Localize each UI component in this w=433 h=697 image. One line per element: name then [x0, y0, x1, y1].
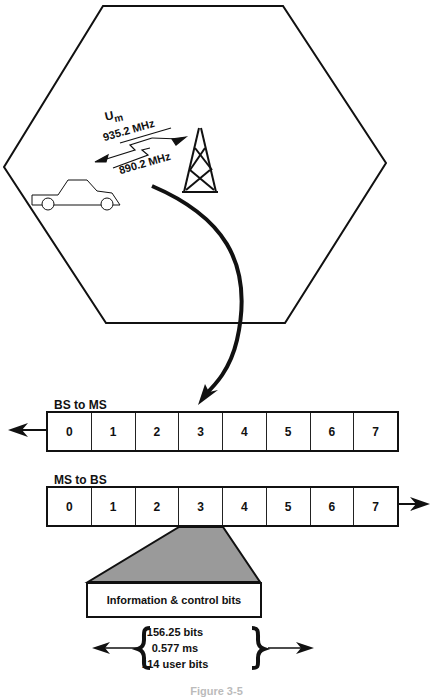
- burst-bits: 156.25 bits: [130, 624, 220, 640]
- burst-content-box: Information & control bits: [86, 582, 262, 618]
- timeslot: 2: [136, 488, 180, 525]
- duration-right-arrow: [268, 642, 314, 654]
- interface-subscript: m: [113, 112, 124, 125]
- brace-right-icon: [252, 628, 264, 668]
- timeslot: 0: [48, 413, 92, 450]
- uplink-direction-arrow: [398, 497, 430, 511]
- downlink-direction-arrow: [8, 423, 46, 437]
- timeslot: 7: [354, 413, 397, 450]
- uplink-tdma-frame: 0 1 2 3 4 5 6 7: [46, 486, 399, 527]
- timeslot: 3: [179, 413, 223, 450]
- burst-duration: 0.577 ms: [130, 640, 220, 656]
- car-icon: [32, 180, 120, 210]
- tower-icon: [182, 128, 218, 192]
- timeslot: 5: [267, 413, 311, 450]
- downlink-label: BS to MS: [54, 398, 107, 412]
- timeslot: 5: [267, 488, 311, 525]
- timeslot: 7: [354, 488, 397, 525]
- timeslot: 6: [311, 488, 355, 525]
- uplink-label: MS to BS: [54, 473, 107, 487]
- timeslot: 0: [48, 488, 92, 525]
- timeslot: 4: [223, 413, 267, 450]
- timeslot: 3: [179, 488, 223, 525]
- burst-stats: 156.25 bits 0.577 ms 114 user bits: [130, 624, 220, 672]
- timeslot: 4: [223, 488, 267, 525]
- timeslot: 1: [92, 488, 136, 525]
- timeslot: 1: [92, 413, 136, 450]
- figure-caption: Figure 3-5: [0, 685, 433, 697]
- burst-expansion: [88, 527, 260, 582]
- timeslot: 2: [136, 413, 180, 450]
- timeslot: 6: [311, 413, 355, 450]
- burst-user-bits: 114 user bits: [130, 656, 220, 672]
- hexagon-cell: [4, 6, 386, 323]
- zoom-arrow-icon: [152, 186, 242, 395]
- downlink-tdma-frame: 0 1 2 3 4 5 6 7: [46, 411, 399, 452]
